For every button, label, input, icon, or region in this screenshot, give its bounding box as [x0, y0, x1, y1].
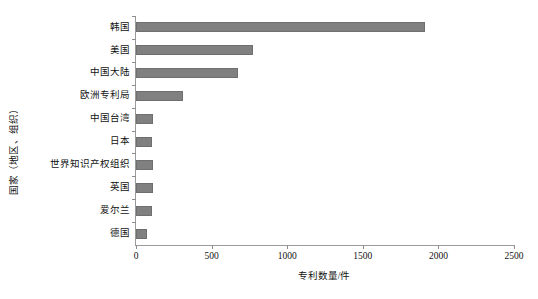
- bar[interactable]: [136, 229, 147, 239]
- bar[interactable]: [136, 45, 253, 55]
- bar[interactable]: [136, 137, 152, 147]
- bar-row[interactable]: 德国: [136, 222, 514, 245]
- x-axis-tick: [136, 245, 137, 249]
- y-axis-tick-label: 德国: [110, 229, 130, 239]
- bar[interactable]: [136, 91, 183, 101]
- y-axis-tick-label: 美国: [110, 46, 130, 56]
- bar-row[interactable]: 英国: [136, 176, 514, 199]
- bar-row[interactable]: 中国台湾: [136, 108, 514, 131]
- x-axis-title: 专利数量/件: [135, 268, 513, 282]
- y-axis-tick-mark: [132, 108, 136, 109]
- y-axis-title: 国家（地区、组织）: [0, 0, 26, 299]
- bar[interactable]: [136, 160, 153, 170]
- bar[interactable]: [136, 183, 153, 193]
- bar-row[interactable]: 日本: [136, 131, 514, 154]
- y-axis-tick-mark: [132, 39, 136, 40]
- y-axis-tick-mark: [132, 222, 136, 223]
- bar-row[interactable]: 爱尔兰: [136, 199, 514, 222]
- bar-row[interactable]: 欧洲专利局: [136, 85, 514, 108]
- x-axis-tick: [212, 245, 213, 249]
- x-axis-tick-label: 500: [204, 251, 218, 261]
- y-axis-tick-mark: [132, 62, 136, 63]
- y-axis-tick-label: 日本: [110, 137, 130, 147]
- x-axis-tick-label: 0: [134, 251, 139, 261]
- bar[interactable]: [136, 68, 238, 78]
- x-axis-tick-label: 2000: [429, 251, 448, 261]
- y-axis-tick-mark: [132, 153, 136, 154]
- bar-row[interactable]: 中国大陆: [136, 62, 514, 85]
- y-axis-tick-label: 爱尔兰: [100, 206, 130, 216]
- y-axis-tick-label: 世界知识产权组织: [50, 160, 130, 170]
- y-axis-tick-mark: [132, 16, 136, 17]
- bar-row[interactable]: 美国: [136, 39, 514, 62]
- y-axis-tick-mark: [132, 131, 136, 132]
- bar-row[interactable]: 世界知识产权组织: [136, 153, 514, 176]
- bar[interactable]: [136, 114, 153, 124]
- x-axis-tick-label: 1000: [278, 251, 297, 261]
- plot-area: 05001000150020002500韩国美国中国大陆欧洲专利局中国台湾日本世…: [135, 16, 514, 246]
- x-axis-tick: [438, 245, 439, 249]
- bar[interactable]: [136, 22, 425, 32]
- y-axis-tick-label: 英国: [110, 183, 130, 193]
- bar[interactable]: [136, 206, 152, 216]
- y-axis-tick-label: 中国大陆: [90, 68, 130, 78]
- y-axis-tick-mark: [132, 85, 136, 86]
- y-axis-tick-label: 韩国: [110, 23, 130, 33]
- x-axis-tick: [287, 245, 288, 249]
- y-axis-tick-mark: [132, 176, 136, 177]
- bar-row[interactable]: 韩国: [136, 16, 514, 39]
- y-axis-tick-label: 中国台湾: [90, 114, 130, 124]
- x-axis-tick-label: 2500: [505, 251, 524, 261]
- y-axis-tick-mark: [132, 199, 136, 200]
- x-axis-tick: [514, 245, 515, 249]
- x-axis-tick-label: 1500: [353, 251, 372, 261]
- x-axis-tick: [363, 245, 364, 249]
- y-axis-tick-label: 欧洲专利局: [80, 91, 130, 101]
- bar-chart-figure: 国家（地区、组织） 05001000150020002500韩国美国中国大陆欧洲…: [0, 0, 538, 299]
